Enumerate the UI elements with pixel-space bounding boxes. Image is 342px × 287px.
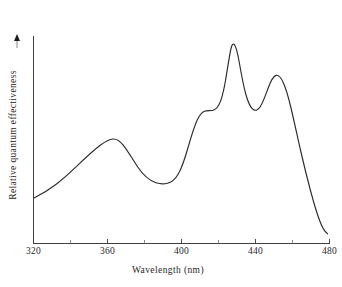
x-tick-label-480: 480 xyxy=(313,246,342,256)
y-axis-title: Relative quantum effectiveness xyxy=(8,30,18,240)
x-axis-major-ticks xyxy=(34,238,330,244)
spectrum-curve xyxy=(34,44,328,234)
x-tick-label-320: 320 xyxy=(17,246,51,256)
x-tick-label-360: 360 xyxy=(91,246,125,256)
x-tick-label-440: 440 xyxy=(239,246,273,256)
x-tick-label-400: 400 xyxy=(165,246,199,256)
x-axis-title: Wavelength (nm) xyxy=(0,265,336,275)
